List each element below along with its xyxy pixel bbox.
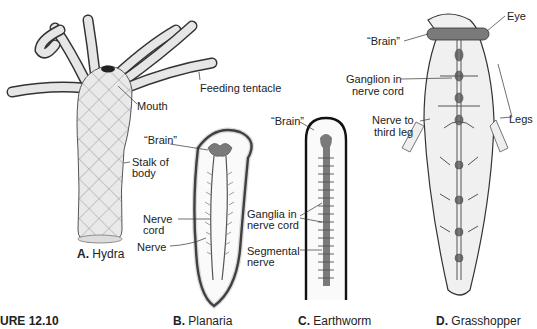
grasshopper-drawing — [401, 14, 512, 295]
label-legs: Legs — [509, 114, 533, 125]
label-mouth: Mouth — [137, 101, 168, 112]
caption-planaria: B. Planaria — [173, 314, 232, 328]
figure-canvas: Mouth Feeding tentacle Stalk of body “Br… — [0, 0, 537, 329]
label-feeding-tentacle: Feeding tentacle — [200, 83, 281, 94]
caption-name: Planaria — [188, 314, 232, 328]
diagram-artwork — [0, 0, 537, 329]
label-planaria-brain: “Brain” — [144, 135, 177, 146]
label-grasshopper-brain: “Brain” — [367, 36, 400, 47]
caption-earthworm: C. Earthworm — [298, 314, 371, 328]
caption-name: Earthworm — [313, 314, 371, 328]
label-nerve-cord-line2: cord — [143, 225, 164, 236]
label-stalk-of-body-line2: body — [132, 168, 156, 179]
caption-letter: B. — [173, 314, 185, 328]
caption-name: Grasshopper — [451, 314, 520, 328]
label-ganglion-line1: Ganglion in — [346, 74, 402, 85]
earthworm-drawing — [300, 118, 346, 300]
label-nerve: Nerve — [137, 242, 166, 253]
label-eye: Eye — [507, 11, 526, 22]
label-earthworm-brain: “Brain” — [271, 116, 304, 127]
caption-letter: D. — [436, 314, 448, 328]
caption-name: Hydra — [92, 247, 124, 261]
caption-letter: A. — [77, 247, 89, 261]
planaria-drawing — [170, 130, 252, 306]
label-ganglion-line2: nerve cord — [352, 86, 404, 97]
label-nerve-to-third-leg-line2: third leg — [374, 127, 413, 138]
label-ganglia-line2: nerve cord — [247, 220, 299, 231]
caption-hydra: A. Hydra — [77, 247, 124, 261]
label-nerve-to-third-leg-line1: Nerve to — [372, 115, 414, 126]
label-segmental-nerve-line2: nerve — [247, 257, 275, 268]
caption-grasshopper: D. Grasshopper — [436, 314, 521, 328]
caption-letter: C. — [298, 314, 310, 328]
figure-number: URE 12.10 — [0, 314, 59, 328]
hydra-drawing — [12, 20, 212, 243]
